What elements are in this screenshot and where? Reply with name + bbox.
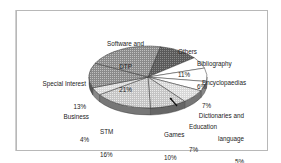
label-text: Encyclopaedias bbox=[202, 79, 246, 87]
label-text: Business bbox=[50, 113, 89, 121]
label-others: Others 11% bbox=[178, 33, 197, 86]
label-text: language bbox=[198, 135, 244, 143]
label-pct: 11% bbox=[178, 71, 197, 79]
label-software: Software and DTP 21% bbox=[107, 25, 144, 101]
label-pct: 10% bbox=[164, 154, 184, 162]
label-pct: 4% bbox=[50, 136, 89, 144]
label-pct: 16% bbox=[100, 151, 113, 159]
label-text: DTP bbox=[107, 63, 144, 71]
label-dictionaries: Dictionaries and language 5% bbox=[198, 97, 244, 163]
label-games: Games 10% bbox=[164, 116, 184, 163]
label-pct: 21% bbox=[107, 86, 144, 94]
label-text: Special Interest bbox=[34, 80, 86, 88]
label-text: Others bbox=[178, 48, 197, 56]
label-text: Dictionaries and bbox=[198, 112, 244, 120]
label-stm: STM 16% bbox=[100, 113, 113, 163]
label-pct: 5% bbox=[198, 158, 244, 163]
label-text: STM bbox=[100, 128, 113, 136]
label-text: Software and bbox=[107, 40, 144, 48]
label-business: Business 4% bbox=[50, 98, 89, 151]
label-text: Games bbox=[164, 131, 184, 139]
